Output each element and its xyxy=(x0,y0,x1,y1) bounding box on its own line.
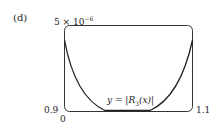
curve-r3 xyxy=(65,40,193,111)
chart-plot xyxy=(0,0,209,125)
viewing-window-frame xyxy=(65,26,193,112)
